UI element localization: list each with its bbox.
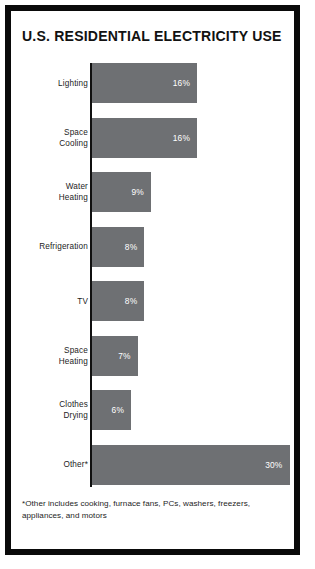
bar-row: TV8%: [11, 281, 294, 321]
bar-fill: 16%: [92, 63, 198, 103]
bar-category-label-line: Clothes: [59, 399, 88, 410]
bar-fill: 30%: [92, 445, 290, 485]
bar-row: WaterHeating9%: [11, 172, 294, 212]
bar-fill: 8%: [92, 227, 145, 267]
chart-card: U.S. RESIDENTIAL ELECTRICITY USE Lightin…: [11, 11, 294, 549]
bar-fill: 6%: [92, 390, 132, 430]
bar-fill: 16%: [92, 118, 198, 158]
bar-value-label: 8%: [125, 281, 138, 321]
bar-fill: 9%: [92, 172, 151, 212]
bar-value-label: 7%: [118, 336, 131, 376]
bar-category-label-line: Lighting: [58, 78, 88, 89]
bar-row: SpaceCooling16%: [11, 118, 294, 158]
bar-category-label: Lighting: [16, 63, 88, 103]
bar-track: 7%: [92, 336, 138, 376]
bar-track: 6%: [92, 390, 132, 430]
chart-footnote: *Other includes cooking, furnace fans, P…: [22, 498, 280, 521]
bar-category-label-line: Refrigeration: [39, 241, 88, 252]
bar-chart-plot-area: Lighting16%SpaceCooling16%WaterHeating9%…: [11, 60, 294, 490]
bar-category-label: ClothesDrying: [16, 390, 88, 430]
bar-fill: 8%: [92, 281, 145, 321]
bar-category-label-line: Heating: [59, 356, 88, 367]
bar-row: ClothesDrying6%: [11, 390, 294, 430]
bar-track: 16%: [92, 63, 198, 103]
bar-track: 8%: [92, 227, 145, 267]
bar-value-label: 6%: [112, 390, 125, 430]
bar-category-label: SpaceHeating: [16, 336, 88, 376]
bar-category-label-line: Water: [66, 181, 88, 192]
bar-value-label: 9%: [131, 172, 144, 212]
bar-track: 9%: [92, 172, 151, 212]
bar-fill: 7%: [92, 336, 138, 376]
bar-row: Other*30%: [11, 445, 294, 485]
bar-track: 16%: [92, 118, 198, 158]
bar-category-label-line: Other*: [63, 459, 88, 470]
bar-category-label: WaterHeating: [16, 172, 88, 212]
bar-category-label-line: Space: [64, 345, 88, 356]
bar-row: Refrigeration8%: [11, 227, 294, 267]
bar-category-label-line: Drying: [63, 410, 88, 421]
bar-category-label-line: TV: [77, 296, 88, 307]
bar-category-label: TV: [16, 281, 88, 321]
bar-category-label: Other*: [16, 445, 88, 485]
bar-value-label: 16%: [173, 118, 190, 158]
bar-value-label: 8%: [125, 227, 138, 267]
bar-category-label: SpaceCooling: [16, 118, 88, 158]
bar-row: Lighting16%: [11, 63, 294, 103]
bar-category-label: Refrigeration: [16, 227, 88, 267]
bar-value-label: 16%: [173, 63, 190, 103]
page-title: U.S. RESIDENTIAL ELECTRICITY USE: [22, 28, 279, 44]
bar-value-label: 30%: [265, 445, 282, 485]
bar-category-label-line: Heating: [59, 192, 88, 203]
infographic-frame: U.S. RESIDENTIAL ELECTRICITY USE Lightin…: [5, 5, 300, 555]
bar-track: 30%: [92, 445, 290, 485]
bar-category-label-line: Space: [64, 127, 88, 138]
bar-row: SpaceHeating7%: [11, 336, 294, 376]
bar-track: 8%: [92, 281, 145, 321]
bar-category-label-line: Cooling: [59, 138, 88, 149]
